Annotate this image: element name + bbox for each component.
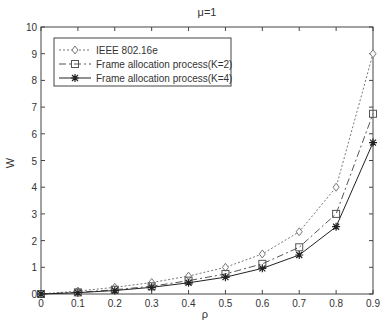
y-tick-label: 5: [31, 156, 37, 167]
x-tick-label: 0.4: [182, 298, 196, 309]
x-tick-label: 0.9: [366, 298, 380, 309]
y-tick-label: 9: [31, 49, 37, 60]
x-tick-label: 0.6: [255, 298, 269, 309]
y-tick-label: 2: [31, 236, 37, 247]
y-tick-label: 1: [31, 262, 37, 273]
line-chart: μ=1 00.10.20.30.40.50.60.70.80.9 0123456…: [0, 0, 387, 328]
legend: IEEE 802.16eFrame allocation process(K=2…: [54, 38, 232, 86]
x-axis-label: ρ: [202, 308, 208, 320]
x-tick-label: 0.2: [108, 298, 122, 309]
y-tick-label: 8: [31, 75, 37, 86]
chart-title: μ=1: [198, 6, 217, 18]
x-tick-label: 0.3: [145, 298, 159, 309]
y-tick-label: 4: [31, 182, 37, 193]
legend-entry: Frame allocation process(K=2): [96, 59, 232, 70]
y-axis-label: W: [4, 157, 16, 168]
x-tick-label: 0.5: [218, 298, 232, 309]
y-tick-label: 6: [31, 129, 37, 140]
y-tick-label: 7: [31, 102, 37, 113]
y-tick-label: 0: [31, 289, 37, 300]
x-tick-label: 0: [38, 298, 44, 309]
x-tick-label: 0.8: [329, 298, 343, 309]
y-tick-label: 10: [26, 22, 38, 33]
x-tick-label: 0.7: [292, 298, 306, 309]
x-tick-label: 0.1: [71, 298, 85, 309]
legend-entry: Frame allocation process(K=4): [96, 73, 232, 84]
y-tick-label: 3: [31, 209, 37, 220]
legend-entry: IEEE 802.16e: [96, 45, 158, 56]
